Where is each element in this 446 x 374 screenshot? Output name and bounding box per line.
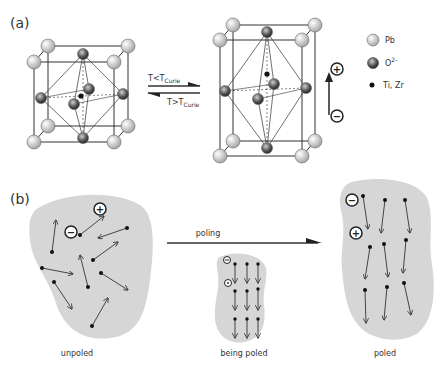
svg-text:−: − xyxy=(348,195,356,206)
pb-atom xyxy=(41,39,55,53)
unpoled-grain xyxy=(29,195,153,339)
pb-atom xyxy=(107,55,121,69)
oxygen-atom xyxy=(269,79,280,90)
pb-atom xyxy=(308,134,322,148)
being-poled-grain xyxy=(215,253,267,342)
ti-zr-atom xyxy=(78,93,83,98)
oxygen-atom xyxy=(78,49,89,60)
being-poled-caption: being poled xyxy=(220,349,267,358)
pb-atom xyxy=(121,119,135,133)
oxygen-atom xyxy=(262,27,273,38)
polarization-indicator: + − xyxy=(325,63,343,122)
pb-atom xyxy=(295,33,309,47)
unpoled-caption: unpoled xyxy=(61,349,93,358)
oxygen-atom xyxy=(78,133,89,144)
pb-atom xyxy=(226,134,240,148)
piezo-diagram: (a) xyxy=(0,0,446,374)
svg-text:+: + xyxy=(352,228,360,239)
cubic-atoms xyxy=(27,39,135,149)
pb-atom xyxy=(107,135,121,149)
svg-text:−: − xyxy=(333,111,341,122)
svg-text:Pb: Pb xyxy=(385,36,395,45)
panel-b-label: (b) xyxy=(10,191,30,207)
oxygen-atom xyxy=(220,86,231,97)
poled-caption: poled xyxy=(374,349,396,358)
oxygen-atom xyxy=(262,143,273,154)
pb-atom xyxy=(27,55,41,69)
oxygen-atom xyxy=(69,99,80,110)
t-above-curie-label: T>TCurie xyxy=(166,98,200,108)
svg-text:−: − xyxy=(67,227,75,238)
legend-ti-zr-icon xyxy=(370,83,375,88)
poling-arrow: poling xyxy=(167,229,322,243)
t-below-curie-label: T<TCurie xyxy=(147,74,181,84)
pb-atom xyxy=(295,149,309,163)
svg-text:Ti, Zr: Ti, Zr xyxy=(382,81,404,90)
svg-text:+: + xyxy=(96,204,104,215)
phase-transition-arrows: T<TCurie T>TCurie xyxy=(147,74,201,108)
legend-oxygen-icon xyxy=(368,58,379,69)
pb-atom xyxy=(308,18,322,32)
oxygen-atom xyxy=(84,84,95,95)
legend-pb-icon xyxy=(367,34,379,46)
pb-atom xyxy=(121,39,135,53)
pb-atom xyxy=(213,149,227,163)
pb-atom xyxy=(213,33,227,47)
oxygen-atom xyxy=(36,93,47,104)
pb-atom xyxy=(27,135,41,149)
oxygen-atom xyxy=(253,94,264,105)
backward-arrowhead xyxy=(147,93,160,97)
arrowhead-icon xyxy=(306,238,322,243)
svg-text:+: + xyxy=(333,64,341,75)
ti-zr-atom xyxy=(264,71,269,76)
legend: Pb O2- Ti, Zr xyxy=(367,34,404,90)
pb-atom xyxy=(41,119,55,133)
oxygen-atom xyxy=(118,89,129,100)
svg-text:poling: poling xyxy=(196,229,221,238)
panel-a-label: (a) xyxy=(10,15,30,31)
oxygen-atom xyxy=(301,83,312,94)
svg-text:O2-: O2- xyxy=(385,56,397,68)
up-arrow-icon xyxy=(325,72,333,82)
pb-atom xyxy=(226,18,240,32)
forward-arrowhead xyxy=(188,82,201,86)
